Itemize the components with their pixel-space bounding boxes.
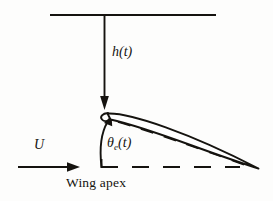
plunge-arrowhead: [100, 96, 109, 110]
diagram-canvas: [0, 0, 273, 201]
wing-apex-diagram: h(t) θe(t) U Wing apex: [0, 0, 273, 201]
velocity-arrowhead: [67, 162, 80, 172]
plunge-label: h(t): [112, 45, 132, 59]
velocity-label: U: [34, 138, 44, 152]
wing-apex-label: Wing apex: [66, 176, 126, 190]
pitch-angle-label: θe(t): [107, 136, 131, 152]
pitch-angle-argument: (t): [118, 135, 131, 150]
pitch-angle-symbol: θ: [107, 135, 114, 150]
